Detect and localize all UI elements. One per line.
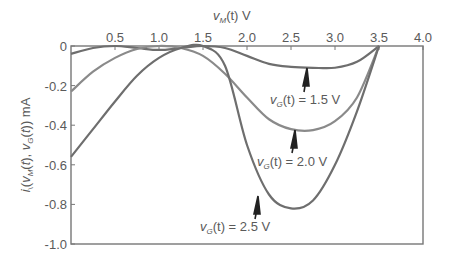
- annotation-2-5v: vG(t) = 2.5 V: [200, 196, 271, 236]
- x-tick-label: 1.5: [194, 30, 212, 45]
- svg-text:i\(vM(t), vG(t)) mA: i\(vM(t), vG(t)) mA: [18, 97, 35, 192]
- y-tick-label: -0.8: [45, 197, 67, 212]
- y-tick-label: -0.2: [45, 79, 67, 94]
- x-tick-label: 2.5: [282, 30, 300, 45]
- x-axis-label: vM(t) V: [213, 8, 251, 25]
- y-tick-label: -0.4: [45, 118, 67, 133]
- y-tick-label: 0: [60, 39, 67, 54]
- series-lines: [71, 45, 379, 209]
- series-line: [71, 45, 379, 209]
- svg-text:vG(t) = 2.0 V: vG(t) = 2.0 V: [257, 154, 328, 171]
- x-tick-label: 4.0: [414, 30, 432, 45]
- y-axis-label: i\(vM(t), vG(t)) mA: [18, 97, 35, 192]
- svg-text:vG(t) = 2.5 V: vG(t) = 2.5 V: [200, 219, 271, 236]
- x-tick-label: 0.5: [106, 30, 124, 45]
- y-tick-label: -1.0: [45, 237, 67, 252]
- arrow-icon: [254, 196, 260, 219]
- x-tick-label: 2.0: [238, 30, 256, 45]
- annotation-1-5v: vG(t) = 1.5 V: [270, 68, 341, 109]
- svg-text:vG(t) = 1.5 V: vG(t) = 1.5 V: [270, 92, 341, 109]
- x-tick-label: 1.0: [150, 30, 168, 45]
- series-line: [71, 46, 379, 131]
- y-tick-label: -0.6: [45, 158, 67, 173]
- arrow-icon: [303, 68, 309, 92]
- annotation-2-0v: vG(t) = 2.0 V: [257, 130, 328, 171]
- chart: vM(t) V 0.51.01.52.02.53.03.54.0 0-0.2-0…: [0, 0, 464, 261]
- arrow-icon: [291, 130, 297, 153]
- x-tick-label: 3.5: [370, 30, 388, 45]
- x-tick-label: 3.0: [326, 30, 344, 45]
